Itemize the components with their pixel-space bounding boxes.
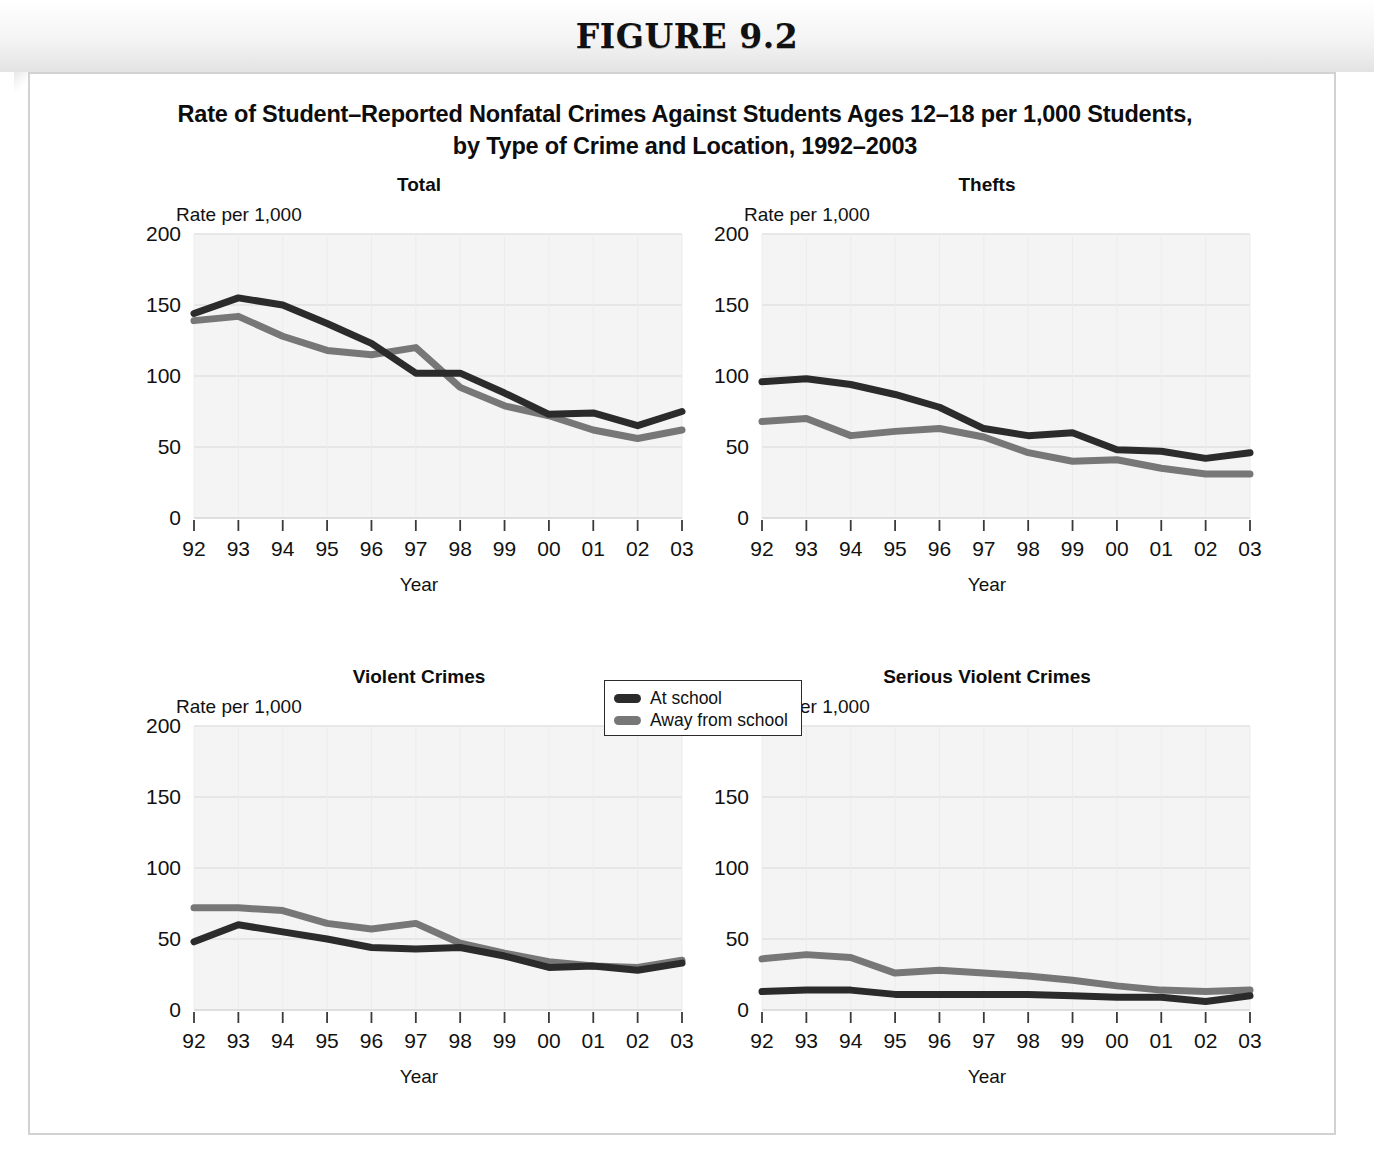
figure-number-banner: FIGURE 9.2 — [0, 0, 1374, 72]
svg-text:94: 94 — [271, 1029, 295, 1052]
svg-text:50: 50 — [158, 927, 181, 950]
panel-title-violent-crimes: Violent Crimes — [194, 666, 644, 688]
svg-text:94: 94 — [271, 537, 295, 560]
svg-text:00: 00 — [537, 1029, 560, 1052]
x-axis-title-total: Year — [194, 574, 644, 596]
svg-text:100: 100 — [714, 364, 749, 387]
plot-svg-total: 050100150200929394959697989900010203 — [134, 226, 694, 571]
svg-text:100: 100 — [146, 856, 181, 879]
svg-text:50: 50 — [726, 435, 749, 458]
svg-text:03: 03 — [670, 1029, 693, 1052]
svg-text:03: 03 — [670, 537, 693, 560]
svg-text:02: 02 — [1194, 1029, 1217, 1052]
page-background: FIGURE 9.2 Rate of Student–Reported Nonf… — [0, 0, 1374, 1171]
svg-text:97: 97 — [972, 537, 995, 560]
figure-title-line-2: by Type of Crime and Location, 1992–2003 — [90, 130, 1280, 162]
svg-text:95: 95 — [315, 537, 338, 560]
svg-text:01: 01 — [1150, 537, 1173, 560]
svg-text:93: 93 — [227, 537, 250, 560]
plot-area-violent-crimes: 050100150200929394959697989900010203 — [134, 718, 694, 1063]
plot-svg-thefts: 050100150200929394959697989900010203 — [702, 226, 1262, 571]
svg-text:50: 50 — [158, 435, 181, 458]
plot-area-total: 050100150200929394959697989900010203 — [134, 226, 694, 571]
figure-title-line-1: Rate of Student–Reported Nonfatal Crimes… — [178, 101, 1193, 127]
svg-text:99: 99 — [493, 1029, 516, 1052]
svg-text:93: 93 — [795, 1029, 818, 1052]
y-axis-unit-label-thefts: Rate per 1,000 — [744, 204, 870, 226]
svg-text:98: 98 — [1017, 1029, 1040, 1052]
y-axis-unit-label-total: Rate per 1,000 — [176, 204, 302, 226]
svg-text:92: 92 — [750, 537, 773, 560]
svg-text:96: 96 — [928, 1029, 951, 1052]
legend-swatch-away-from-school — [614, 716, 641, 725]
svg-text:97: 97 — [972, 1029, 995, 1052]
svg-text:99: 99 — [1061, 537, 1084, 560]
svg-text:96: 96 — [928, 537, 951, 560]
svg-text:150: 150 — [714, 785, 749, 808]
x-axis-title-serious-violent-crimes: Year — [762, 1066, 1212, 1088]
figure-number: FIGURE 9.2 — [576, 17, 798, 56]
svg-text:100: 100 — [146, 364, 181, 387]
svg-text:98: 98 — [1017, 537, 1040, 560]
chart-panel-thefts: Thefts Rate per 1,000 050100150200929394… — [702, 174, 1302, 614]
svg-text:94: 94 — [839, 1029, 863, 1052]
svg-text:00: 00 — [537, 537, 560, 560]
svg-text:02: 02 — [1194, 537, 1217, 560]
plot-area-thefts: 050100150200929394959697989900010203 — [702, 226, 1262, 571]
panel-title-thefts: Thefts — [762, 174, 1212, 196]
svg-text:0: 0 — [737, 506, 749, 529]
svg-text:0: 0 — [169, 998, 181, 1021]
svg-text:200: 200 — [146, 718, 181, 737]
figure-title: Rate of Student–Reported Nonfatal Crimes… — [90, 98, 1280, 162]
svg-text:50: 50 — [726, 927, 749, 950]
svg-text:94: 94 — [839, 537, 863, 560]
svg-text:92: 92 — [182, 537, 205, 560]
panel-title-total: Total — [194, 174, 644, 196]
svg-text:00: 00 — [1105, 1029, 1128, 1052]
chart-legend: At school Away from school — [604, 680, 802, 736]
svg-text:96: 96 — [360, 537, 383, 560]
svg-text:93: 93 — [227, 1029, 250, 1052]
svg-text:0: 0 — [737, 998, 749, 1021]
legend-label-away-from-school: Away from school — [650, 710, 788, 731]
svg-text:03: 03 — [1238, 537, 1261, 560]
y-axis-unit-label-violent-crimes: Rate per 1,000 — [176, 696, 302, 718]
panel-title-serious-violent-crimes: Serious Violent Crimes — [762, 666, 1212, 688]
svg-text:200: 200 — [714, 226, 749, 245]
svg-text:95: 95 — [883, 1029, 906, 1052]
svg-text:03: 03 — [1238, 1029, 1261, 1052]
svg-text:99: 99 — [1061, 1029, 1084, 1052]
svg-text:02: 02 — [626, 537, 649, 560]
legend-item-at-school: At school — [614, 687, 793, 709]
svg-text:150: 150 — [714, 293, 749, 316]
plot-area-serious-violent-crimes: 050100150200929394959697989900010203 — [702, 718, 1262, 1063]
svg-text:92: 92 — [750, 1029, 773, 1052]
svg-text:01: 01 — [582, 1029, 605, 1052]
svg-text:92: 92 — [182, 1029, 205, 1052]
svg-text:150: 150 — [146, 293, 181, 316]
svg-text:150: 150 — [146, 785, 181, 808]
svg-text:00: 00 — [1105, 537, 1128, 560]
x-axis-title-violent-crimes: Year — [194, 1066, 644, 1088]
svg-text:93: 93 — [795, 537, 818, 560]
legend-item-away-from-school: Away from school — [614, 709, 793, 731]
plot-svg-serious-violent-crimes: 050100150200929394959697989900010203 — [702, 718, 1262, 1063]
chart-panel-total: Total Rate per 1,000 0501001502009293949… — [134, 174, 734, 614]
x-axis-title-thefts: Year — [762, 574, 1212, 596]
svg-text:02: 02 — [626, 1029, 649, 1052]
svg-text:96: 96 — [360, 1029, 383, 1052]
svg-text:97: 97 — [404, 537, 427, 560]
svg-text:100: 100 — [714, 856, 749, 879]
legend-label-at-school: At school — [650, 688, 722, 709]
svg-text:97: 97 — [404, 1029, 427, 1052]
svg-text:98: 98 — [449, 1029, 472, 1052]
svg-text:95: 95 — [315, 1029, 338, 1052]
svg-text:200: 200 — [146, 226, 181, 245]
plot-svg-violent-crimes: 050100150200929394959697989900010203 — [134, 718, 694, 1063]
svg-text:95: 95 — [883, 537, 906, 560]
svg-text:0: 0 — [169, 506, 181, 529]
figure-card: Rate of Student–Reported Nonfatal Crimes… — [28, 72, 1336, 1135]
svg-text:01: 01 — [1150, 1029, 1173, 1052]
svg-text:01: 01 — [582, 537, 605, 560]
svg-text:98: 98 — [449, 537, 472, 560]
